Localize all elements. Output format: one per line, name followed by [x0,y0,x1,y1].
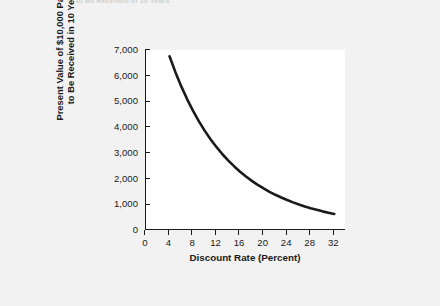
y-tick-label: 4,000 [92,122,138,132]
x-tick-label: 16 [227,237,251,248]
x-tick-mark [215,230,216,235]
y-axis-title: Present Value of $10,000 Payment to Be R… [54,0,76,140]
chart-page: to Be Received in 10 Years Present Value… [0,0,440,306]
x-tick-label: 20 [251,237,275,248]
y-tick-label: 5,000 [92,96,138,106]
y-tick-mark [145,101,150,102]
y-tick-label: 6,000 [92,71,138,81]
x-tick-label: 0 [133,237,157,248]
x-tick-mark [286,230,287,235]
y-tick-label: 0 [92,225,138,235]
x-tick-mark [262,230,263,235]
x-tick-label: 32 [321,237,345,248]
chart-figure: Present Value of $10,000 Payment to Be R… [72,44,362,264]
y-tick-label: 1,000 [92,199,138,209]
x-tick-label: 28 [298,237,322,248]
x-tick-mark [144,230,145,235]
y-tick-mark [145,178,150,179]
present-value-curve [170,56,335,214]
y-tick-mark [145,75,150,76]
y-tick-label: 7,000 [92,45,138,55]
y-tick-mark [145,49,150,50]
present-value-curve-svg [146,50,346,230]
x-tick-mark [333,230,334,235]
x-tick-label: 12 [204,237,228,248]
y-tick-mark [145,204,150,205]
x-tick-mark [191,230,192,235]
x-tick-label: 8 [180,237,204,248]
y-tick-label: 3,000 [92,148,138,158]
plot-area [145,50,345,230]
y-tick-mark [145,126,150,127]
y-tick-label: 2,000 [92,174,138,184]
x-tick-mark [168,230,169,235]
x-tick-mark [238,230,239,235]
x-tick-mark [309,230,310,235]
y-tick-mark [145,152,150,153]
x-tick-label: 24 [274,237,298,248]
caption-tail-text: to Be Received in 10 Years [76,0,170,5]
x-axis-title: Discount Rate (Percent) [145,252,345,263]
x-tick-label: 4 [157,237,181,248]
y-tick-mark [145,229,150,230]
